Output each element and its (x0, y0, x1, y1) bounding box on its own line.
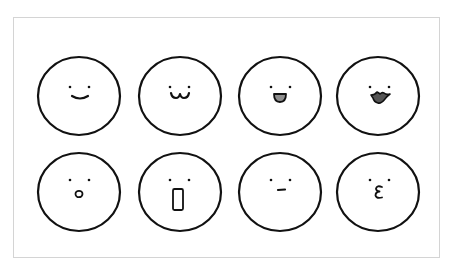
eye-right-icon (188, 86, 191, 89)
mouth-rect-icon (173, 189, 183, 210)
face-surprised-o (38, 153, 120, 231)
eye-right-icon (388, 179, 391, 182)
mouth-epsilon-icon (376, 186, 383, 198)
mouth-smile-icon (72, 96, 88, 99)
eye-left-icon (270, 179, 273, 182)
mouth-duck-icon (371, 92, 390, 103)
eye-left-icon (270, 86, 273, 89)
eye-right-icon (289, 86, 292, 89)
face-cat-smile (139, 57, 221, 135)
mouth-o-icon (76, 191, 83, 197)
eye-left-icon (69, 179, 72, 182)
face-outline (239, 153, 321, 231)
eye-right-icon (88, 179, 91, 182)
mouth-w-icon (171, 93, 189, 98)
face-outline (38, 57, 120, 135)
eye-right-icon (188, 179, 191, 182)
eye-left-icon (69, 86, 72, 89)
eye-left-icon (169, 86, 172, 89)
eye-right-icon (289, 179, 292, 182)
eye-left-icon (369, 86, 372, 89)
faces-canvas (0, 0, 455, 269)
face-open-smile (239, 57, 321, 135)
eye-right-icon (388, 86, 391, 89)
mouth-flat-icon (278, 190, 285, 191)
face-duck-lips (337, 57, 419, 135)
face-shocked (139, 153, 221, 231)
mouth-open-icon (274, 94, 286, 102)
face-outline (139, 153, 221, 231)
eye-right-icon (88, 86, 91, 89)
eye-left-icon (369, 179, 372, 182)
face-neutral (239, 153, 321, 231)
eye-left-icon (169, 179, 172, 182)
face-kiss (337, 153, 419, 231)
face-smile (38, 57, 120, 135)
face-outline (38, 153, 120, 231)
